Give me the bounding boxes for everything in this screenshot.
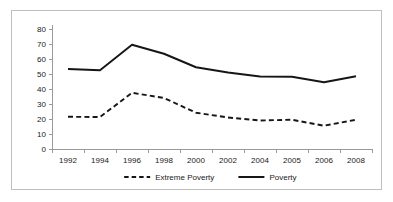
line-chart: 80706050403020100 1992199419961998200020… [12,11,383,191]
y-axis-ticks: 80706050403020100 [37,25,52,154]
chart-frame: 80706050403020100 1992199419961998200020… [11,10,382,190]
y-tick-label: 30 [37,100,46,109]
y-tick-label: 50 [37,70,46,79]
series-line-extreme-poverty [68,93,356,126]
data-series-group [68,45,356,126]
chart-plot-area: 80706050403020100 1992199419961998200020… [12,11,383,191]
chart-legend: Extreme PovertyPoverty [124,173,296,182]
y-tick-label: 10 [37,130,46,139]
x-tick-label: 2006 [315,156,333,165]
series-line-poverty [68,45,356,83]
y-tick-label: 80 [37,25,46,34]
x-tick-label: 2008 [347,156,365,165]
legend-item-extreme-poverty[interactable]: Extreme Poverty [124,173,214,182]
x-axis-ticks: 1992199419961998200020022004200520062008 [52,149,372,165]
y-tick-label: 0 [42,145,47,154]
x-tick-label: 2002 [219,156,237,165]
x-tick-label: 1992 [59,156,77,165]
y-tick-label: 60 [37,55,46,64]
x-tick-label: 2000 [187,156,205,165]
y-tick-label: 20 [37,115,46,124]
y-tick-label: 40 [37,85,46,94]
x-tick-label: 1994 [91,156,109,165]
x-tick-label: 1998 [155,156,173,165]
x-tick-label: 2004 [251,156,269,165]
y-tick-label: 70 [37,40,46,49]
legend-label: Extreme Poverty [155,173,214,182]
x-tick-label: 1996 [123,156,141,165]
legend-label: Poverty [269,173,296,182]
x-tick-label: 2005 [283,156,301,165]
legend-item-poverty[interactable]: Poverty [238,173,296,182]
